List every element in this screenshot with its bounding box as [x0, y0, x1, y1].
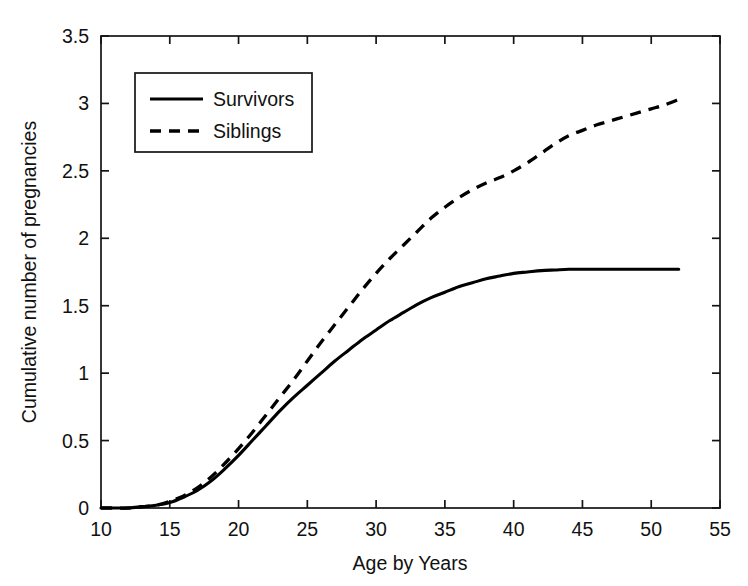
line-chart: 00.511.522.533.5 10152025303540455055 Cu…	[0, 0, 748, 586]
y-tick-label-1.5: 1.5	[62, 295, 89, 317]
y-axis-title: Cumulative number of pregnancies	[18, 121, 40, 424]
y-tick-label-0.5: 0.5	[62, 430, 89, 452]
x-tick-label-50: 50	[640, 518, 662, 540]
x-tick-label-40: 40	[503, 518, 525, 540]
x-axis-title: Age by Years	[353, 552, 468, 574]
x-tick-label-30: 30	[365, 518, 387, 540]
x-tick-label-55: 55	[709, 518, 731, 540]
legend-label-siblings: Siblings	[213, 120, 282, 142]
x-tick-label-25: 25	[296, 518, 318, 540]
chart-figure: 00.511.522.533.5 10152025303540455055 Cu…	[0, 0, 748, 586]
chart-legend: Survivors Siblings	[135, 73, 312, 152]
x-tick-label-15: 15	[159, 518, 181, 540]
y-tick-label-1: 1	[78, 362, 89, 384]
legend-label-survivors: Survivors	[213, 88, 295, 110]
x-axis-tick-labels: 10152025303540455055	[90, 518, 731, 540]
x-tick-label-45: 45	[572, 518, 594, 540]
y-axis-tick-labels: 00.511.522.533.5	[62, 25, 89, 519]
x-tick-label-10: 10	[90, 518, 112, 540]
x-tick-label-35: 35	[434, 518, 456, 540]
y-tick-label-2: 2	[78, 227, 89, 249]
y-tick-label-2.5: 2.5	[62, 160, 89, 182]
y-tick-label-3: 3	[78, 92, 89, 114]
y-tick-label-3.5: 3.5	[62, 25, 89, 47]
y-tick-label-0: 0	[78, 497, 89, 519]
x-tick-label-20: 20	[228, 518, 250, 540]
